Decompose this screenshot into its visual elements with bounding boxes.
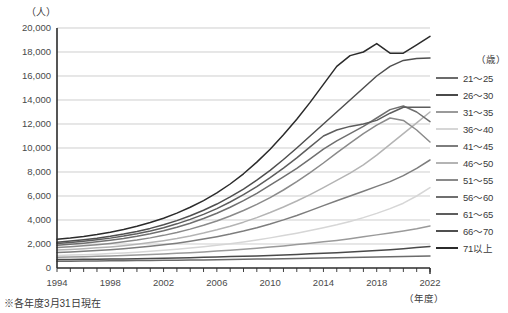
series-line — [57, 118, 430, 248]
legend-item-label: 41～45 — [463, 139, 493, 153]
legend-color-swatch — [436, 230, 458, 232]
legend-item-label: 56～60 — [463, 190, 493, 204]
legend-item[interactable]: 46～50 — [436, 154, 508, 171]
y-tick-label: 20,000 — [22, 22, 51, 33]
legend-item[interactable]: 21～25 — [436, 69, 508, 86]
legend-item-label: 61～65 — [463, 207, 493, 221]
legend-item[interactable]: 26～30 — [436, 86, 508, 103]
legend-color-swatch — [436, 179, 458, 181]
legend-item[interactable]: 36～40 — [436, 120, 508, 137]
y-tick-label: 6,000 — [27, 190, 51, 201]
y-tick-label: 10,000 — [22, 142, 51, 153]
legend-color-swatch — [436, 162, 458, 164]
legend-item-label: 21～25 — [463, 71, 493, 85]
legend-unit-label: （歳） — [436, 52, 508, 66]
x-tick-label: 2010 — [260, 277, 281, 288]
x-tick-label: 2002 — [153, 277, 174, 288]
legend-color-swatch — [436, 94, 458, 96]
x-tick-label: 2014 — [313, 277, 334, 288]
x-tick-label: 2006 — [206, 277, 227, 288]
line-chart: 02,0004,0006,0008,00010,00012,00014,0001… — [0, 0, 508, 313]
series-line — [57, 112, 430, 250]
x-tick-label: 2018 — [366, 277, 387, 288]
chart-legend: （歳） 21～2526～3031～3536～4041～4546～5051～555… — [436, 52, 508, 256]
y-tick-label: 14,000 — [22, 94, 51, 105]
legend-item-label: 26～30 — [463, 88, 493, 102]
x-tick-labels: 19941998200220062010201420182022 — [46, 277, 440, 288]
legend-item[interactable]: 61～65 — [436, 205, 508, 222]
legend-color-swatch — [436, 111, 458, 113]
legend-item-label: 71以上 — [463, 241, 493, 255]
y-tick-label: 16,000 — [22, 70, 51, 81]
legend-item[interactable]: 66～70 — [436, 222, 508, 239]
legend-item[interactable]: 71以上 — [436, 239, 508, 256]
legend-item-label: 66～70 — [463, 224, 493, 238]
y-tick-label: 12,000 — [22, 118, 51, 129]
x-axis-unit-label: （年度） — [404, 291, 444, 305]
legend-color-swatch — [436, 77, 458, 79]
legend-item[interactable]: 51～55 — [436, 171, 508, 188]
series-line — [57, 36, 430, 239]
y-tick-label: 8,000 — [27, 166, 51, 177]
chart-page: （人） 02,0004,0006,0008,00010,00012,00014,… — [0, 0, 508, 313]
x-tick-label: 2022 — [419, 277, 440, 288]
legend-item[interactable]: 31～35 — [436, 103, 508, 120]
grid-lines — [57, 28, 430, 244]
legend-color-swatch — [436, 128, 458, 130]
footnote-text: ※各年度3月31日現在 — [4, 295, 101, 310]
y-tick-label: 18,000 — [22, 46, 51, 57]
legend-item-label: 46～50 — [463, 156, 493, 170]
legend-item-label: 36～40 — [463, 122, 493, 136]
legend-items: 21～2526～3031～3536～4041～4546～5051～5556～60… — [436, 69, 508, 256]
legend-color-swatch — [436, 145, 458, 147]
x-tick-label: 1994 — [46, 277, 67, 288]
legend-color-swatch — [436, 213, 458, 215]
legend-item[interactable]: 41～45 — [436, 137, 508, 154]
plot-lines — [57, 36, 430, 261]
y-tick-label: 0 — [46, 262, 51, 273]
legend-item[interactable]: 56～60 — [436, 188, 508, 205]
legend-item-label: 31～35 — [463, 105, 493, 119]
y-tick-label: 4,000 — [27, 214, 51, 225]
x-tick-label: 1998 — [100, 277, 121, 288]
legend-color-swatch — [436, 196, 458, 198]
y-tick-label: 2,000 — [27, 238, 51, 249]
legend-item-label: 51～55 — [463, 173, 493, 187]
y-tick-labels: 02,0004,0006,0008,00010,00012,00014,0001… — [22, 22, 51, 273]
legend-color-swatch — [436, 247, 458, 249]
